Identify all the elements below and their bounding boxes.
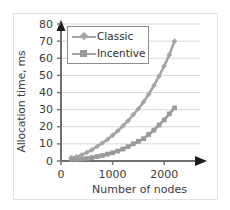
data-point-marker xyxy=(84,156,89,161)
data-point-marker xyxy=(115,149,120,154)
data-point-marker xyxy=(136,139,141,144)
legend-item-classic: Classic xyxy=(71,28,133,45)
y-axis-title-text: Allocation time, ms xyxy=(15,50,28,152)
x-tick-label: 1000 xyxy=(93,169,133,180)
chart-legend: Classic Incentive xyxy=(67,26,149,64)
data-point-marker xyxy=(146,132,151,137)
data-point-marker xyxy=(141,136,146,141)
data-point-marker xyxy=(79,157,84,162)
x-axis-arrowhead xyxy=(195,156,207,166)
legend-item-incentive: Incentive xyxy=(71,45,145,62)
data-point-marker xyxy=(74,157,79,162)
data-point-marker xyxy=(167,112,172,117)
legend-marker-square-icon xyxy=(71,48,97,60)
data-point-marker xyxy=(157,123,162,128)
data-point-marker xyxy=(95,154,100,159)
legend-label-classic: Classic xyxy=(97,31,133,42)
data-point-marker xyxy=(105,152,110,157)
data-point-marker xyxy=(126,144,131,149)
x-tick-label: 2000 xyxy=(144,169,184,180)
data-point-marker xyxy=(131,141,136,146)
data-point-marker xyxy=(121,147,126,152)
legend-label-incentive: Incentive xyxy=(97,48,145,59)
data-point-marker xyxy=(90,155,95,160)
y-axis-arrowhead xyxy=(57,20,66,31)
data-point-marker xyxy=(110,150,115,155)
data-point-marker xyxy=(162,118,167,123)
y-tick-label: 80 xyxy=(23,19,53,30)
x-tick-label: 0 xyxy=(41,169,81,180)
chart-figure: 01020304050607080 010002000 Allocation t… xyxy=(0,0,230,210)
data-point-marker xyxy=(100,153,105,158)
legend-marker-diamond-icon xyxy=(71,31,97,43)
data-point-marker xyxy=(151,128,156,133)
data-point-marker xyxy=(69,157,74,162)
y-axis-title: Allocation time, ms xyxy=(10,37,29,167)
data-point-marker xyxy=(172,106,177,111)
x-axis-title: Number of nodes xyxy=(92,183,187,196)
